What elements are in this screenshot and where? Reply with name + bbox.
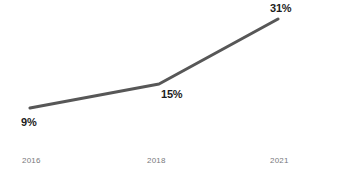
x-tick-label-2018: 2018 (147, 156, 166, 165)
data-label-2021: 31% (270, 2, 291, 14)
line-chart: 9% 15% 31% 2016 2018 2021 (0, 0, 346, 178)
x-tick-label-2021: 2021 (270, 156, 289, 165)
data-label-2016: 9% (21, 116, 37, 128)
data-label-2018: 15% (161, 88, 182, 100)
series-line-path (30, 19, 278, 108)
x-tick-label-2016: 2016 (22, 156, 41, 165)
